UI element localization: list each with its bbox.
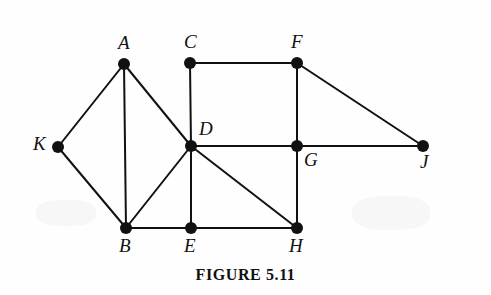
graph-vertex-b [120, 222, 132, 234]
vertex-label-k: K [33, 134, 46, 153]
vertex-label-a: A [118, 33, 130, 52]
graph-edge-a-d [124, 64, 191, 146]
graph-diagram [0, 0, 491, 295]
figure-container: ACFKDGJBEH FIGURE 5.11 [0, 0, 491, 295]
vertex-label-c: C [184, 32, 197, 51]
graph-edge-f-j [297, 63, 423, 146]
edge-layer [58, 63, 423, 228]
vertex-label-g: G [304, 150, 318, 169]
figure-caption: FIGURE 5.11 [0, 266, 491, 284]
vertex-label-j: J [420, 152, 428, 171]
vertex-label-h: H [289, 236, 303, 255]
graph-vertex-g [291, 140, 303, 152]
vertex-label-b: B [119, 236, 131, 255]
graph-edge-a-k [58, 64, 124, 147]
vertex-label-d: D [199, 119, 213, 138]
graph-edge-c-d [190, 63, 191, 146]
graph-edge-k-b [58, 147, 126, 228]
graph-vertex-c [184, 57, 196, 69]
vertex-label-f: F [291, 32, 303, 51]
graph-edge-d-b [126, 146, 191, 228]
graph-vertex-h [291, 222, 303, 234]
graph-edge-d-h [191, 146, 297, 228]
graph-vertex-d [185, 140, 197, 152]
graph-vertex-e [185, 222, 197, 234]
graph-edge-a-b [124, 64, 126, 228]
graph-vertex-a [118, 58, 130, 70]
graph-vertex-k [52, 141, 64, 153]
vertex-label-e: E [184, 236, 196, 255]
graph-vertex-f [291, 57, 303, 69]
